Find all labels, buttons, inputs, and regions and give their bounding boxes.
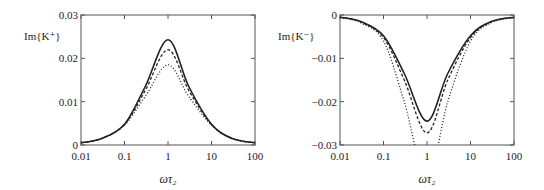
- left-y-tick-label: 0.02: [59, 52, 78, 64]
- left-y-tick-label: 0.01: [59, 96, 78, 108]
- right-x-tick-label: 0.01: [330, 150, 349, 162]
- chart-figure: 0.010.111010000.010.020.03 Im{K⁺} ωτ₂ 0.…: [0, 0, 544, 190]
- left-y-tick-label: 0.03: [59, 9, 79, 21]
- left-x-tick-label: 100: [247, 150, 264, 162]
- left-x-tick-label: 0.01: [71, 150, 90, 162]
- right-plot-frame: [340, 15, 514, 145]
- left-x-tick-label: 1: [165, 150, 171, 162]
- left-panel: 0.010.111010000.010.020.03 Im{K⁺} ωτ₂: [24, 9, 264, 186]
- left-series-dotted: [81, 65, 255, 143]
- right-y-tick-label: −0.02: [312, 96, 337, 108]
- right-x-tick-label: 1: [424, 150, 430, 162]
- right-x-axis-label: ωτ₂: [419, 172, 436, 186]
- left-x-tick-label: 0.1: [118, 150, 132, 162]
- right-y-tick-label: 0: [332, 9, 338, 21]
- right-x-tick-label: 0.1: [377, 150, 391, 162]
- right-panel: 0.010.11101000−0.01−0.02−0.03 Im{K⁻} ωτ₂: [278, 9, 523, 186]
- right-y-tick-label: −0.03: [312, 139, 338, 151]
- right-series-dashed: [340, 17, 514, 133]
- left-series-solid: [81, 40, 255, 143]
- right-x-tick-label: 10: [465, 150, 477, 162]
- right-y-tick-label: −0.01: [312, 52, 337, 64]
- left-y-axis-label: Im{K⁺}: [24, 30, 61, 42]
- right-series-solid: [340, 17, 514, 121]
- left-plot-frame: [81, 15, 255, 145]
- left-x-axis-label: ωτ₂: [160, 172, 177, 186]
- left-x-tick-label: 10: [206, 150, 218, 162]
- right-y-axis-label: Im{K⁻}: [278, 30, 315, 42]
- left-series-dashed: [81, 50, 255, 143]
- left-y-tick-label: 0: [73, 139, 79, 151]
- right-x-tick-label: 100: [506, 150, 523, 162]
